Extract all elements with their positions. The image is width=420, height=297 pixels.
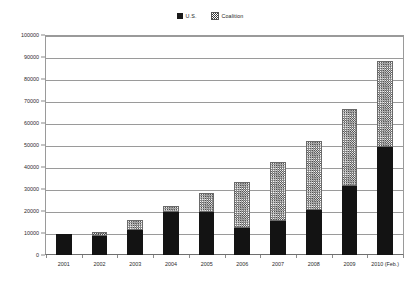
legend-label-us: U.S. [186,13,197,19]
y-axis-tick-label: 20000 [24,208,39,214]
bar-slot[interactable] [56,35,72,255]
x-axis-tick-mark [332,255,333,258]
bar-segment-us[interactable] [306,210,322,255]
x-axis-tick-mark [46,255,47,258]
y-axis: 0100002000030000400005000060000700008000… [0,35,45,255]
x-axis-tick-mark [189,255,190,258]
x-axis-tick-label: 2003 [129,261,141,267]
bar-segment-coalition[interactable] [163,206,179,212]
bar-segment-coalition[interactable] [342,109,358,185]
chart-container: U.S. Coalition 0100002000030000400005000… [0,0,420,297]
x-axis-tick-label: 2007 [272,261,284,267]
x-axis-tick-label: 2002 [94,261,106,267]
bar-slot[interactable] [127,35,143,255]
bar-slot[interactable] [270,35,286,255]
y-axis-tick-label: 80000 [24,76,39,82]
bar-segment-us[interactable] [163,212,179,255]
bar-slot[interactable] [342,35,358,255]
legend-label-coalition: Coalition [222,13,244,19]
x-axis-tick-label: 2008 [308,261,320,267]
y-axis-tick-label: 40000 [24,164,39,170]
x-axis-tick-label: 2001 [58,261,70,267]
x-axis-tick-mark [260,255,261,258]
y-axis-tick-label: 30000 [24,186,39,192]
bar-segment-us[interactable] [127,230,143,255]
y-axis-tick-label: 0 [36,252,39,258]
bar-segment-coalition[interactable] [92,232,108,236]
bar-segment-us[interactable] [92,236,108,255]
x-axis-tick-label: 2005 [201,261,213,267]
bar-segment-coalition[interactable] [199,193,215,213]
bar-segment-us[interactable] [342,186,358,255]
legend-swatch-coalition-icon [211,12,219,20]
x-axis-tick-mark [82,255,83,258]
bar-segment-us[interactable] [234,228,250,256]
y-axis-tick-label: 90000 [24,54,39,60]
legend-swatch-us-icon [177,13,183,19]
legend-item-coalition[interactable]: Coalition [211,12,244,20]
y-axis-tick-label: 50000 [24,142,39,148]
bar-segment-us[interactable] [56,234,72,255]
bar-group [46,35,403,255]
x-axis-tick-label: 2004 [165,261,177,267]
bar-slot[interactable] [234,35,250,255]
bar-segment-coalition[interactable] [377,61,393,147]
bar-slot[interactable] [163,35,179,255]
bar-segment-us[interactable] [199,212,215,255]
bar-segment-coalition[interactable] [270,162,286,221]
y-axis-tick-label: 60000 [24,120,39,126]
x-axis-tick-mark [367,255,368,258]
chart-legend: U.S. Coalition [0,12,420,20]
y-axis-tick-label: 70000 [24,98,39,104]
bar-slot[interactable] [199,35,215,255]
x-axis: 2001200220032004200520062007200820092010… [46,255,403,275]
x-axis-tick-mark [117,255,118,258]
bar-slot[interactable] [92,35,108,255]
bar-slot[interactable] [306,35,322,255]
bar-slot[interactable] [377,35,393,255]
x-axis-tick-label: 2009 [343,261,355,267]
x-axis-tick-mark [225,255,226,258]
bar-segment-coalition[interactable] [127,220,143,230]
y-axis-tick-label: 10000 [24,230,39,236]
x-axis-tick-label: 2010 (Feb.) [371,261,399,267]
x-axis-tick-mark [403,255,404,258]
x-axis-tick-label: 2006 [236,261,248,267]
x-axis-tick-mark [153,255,154,258]
x-axis-tick-mark [296,255,297,258]
bar-segment-coalition[interactable] [306,141,322,210]
legend-item-us[interactable]: U.S. [177,13,197,19]
bar-segment-coalition[interactable] [234,182,250,228]
y-axis-tick-label: 100000 [21,32,39,38]
bar-segment-us[interactable] [377,147,393,255]
bar-segment-us[interactable] [270,221,286,255]
